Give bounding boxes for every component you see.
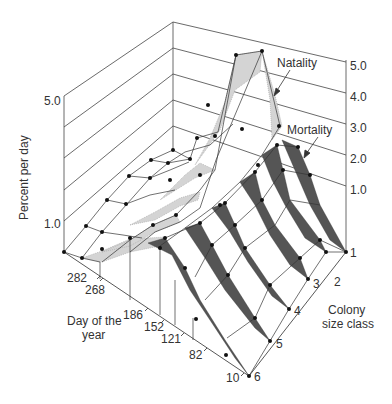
day-tick-121: 121 bbox=[161, 332, 181, 346]
size-axis-label-2: size class bbox=[322, 317, 374, 331]
day-tick-10: 10 bbox=[226, 371, 240, 385]
natality-label: Natality bbox=[277, 56, 317, 70]
sz5: 5 bbox=[276, 337, 283, 351]
z-tick-right-5: 5.0 bbox=[350, 59, 367, 73]
size-axis-label-1: Colony bbox=[328, 303, 365, 317]
size-tick-1: 1 bbox=[350, 246, 357, 260]
surface-chart: 5.0 1.0 5.0 4.0 3.0 2.0 1.0 Percent per … bbox=[0, 0, 392, 404]
sz2: 2 bbox=[334, 275, 341, 289]
day-axis-label-1: Day of the bbox=[67, 314, 122, 328]
sz3: 3 bbox=[313, 277, 320, 291]
z-tick-right-1: 1.0 bbox=[350, 183, 367, 197]
day-axis-label-2: year bbox=[82, 328, 105, 342]
z-tick-left-1: 1.0 bbox=[44, 217, 61, 231]
size-class-labels: 2 bbox=[333, 246, 340, 260]
sz6: 6 bbox=[254, 370, 261, 384]
z-axis-label: Percent per day bbox=[17, 135, 31, 220]
day-tick-268: 268 bbox=[85, 283, 105, 297]
z-tick-right-3: 3.0 bbox=[350, 121, 367, 135]
z-tick-right-2: 2.0 bbox=[350, 152, 367, 166]
mortality-label: Mortality bbox=[287, 123, 332, 137]
z-tick-right-4: 4.0 bbox=[350, 90, 367, 104]
day-tick-186: 186 bbox=[123, 308, 143, 322]
sz4: 4 bbox=[294, 304, 301, 318]
day-tick-82: 82 bbox=[189, 348, 203, 362]
z-tick-left-5: 5.0 bbox=[44, 94, 61, 108]
